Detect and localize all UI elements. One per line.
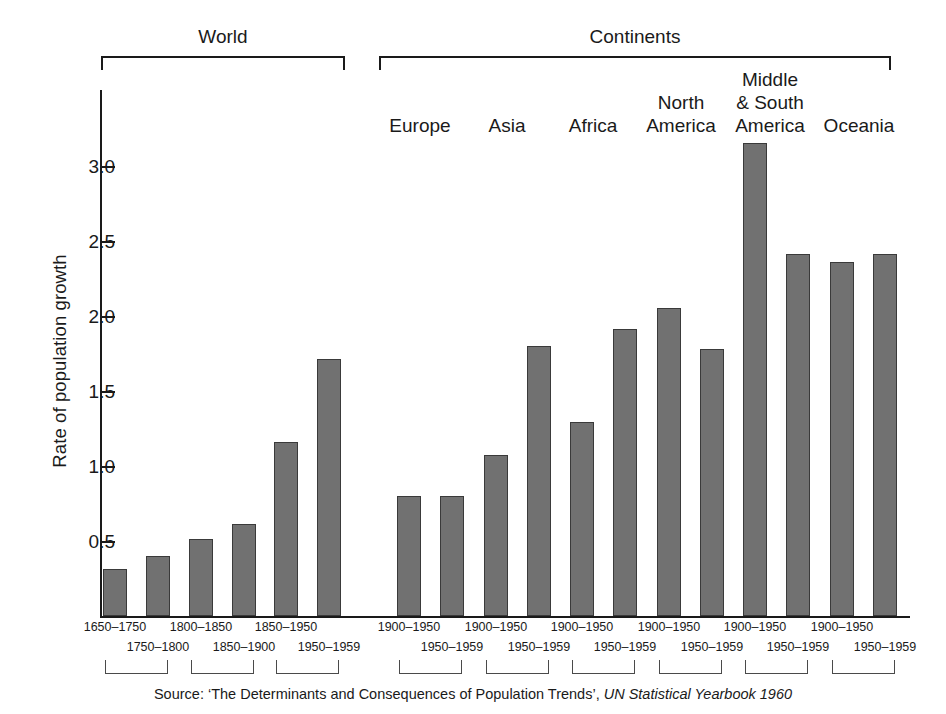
bar-world-3 [232,524,256,616]
source-italic: UN Statistical Yearbook 1960 [604,686,792,702]
pair-bracket-continent-1 [486,660,549,674]
period-label-world-1: 1750–1800 [108,640,208,654]
period-label-continent-0: 1900–1950 [359,620,459,634]
period-label-continent-6: 1900–1950 [619,620,719,634]
period-label-continent-5: 1950–1959 [575,640,675,654]
period-label-continent-3: 1950–1959 [489,640,589,654]
period-label-area: 1650–17501750–18001800–18501850–19001850… [0,618,946,688]
bar-middle---south-america-1 [786,254,810,616]
period-label-continent-8: 1900–1950 [705,620,805,634]
bar-oceania-0 [830,262,854,616]
bar-asia-0 [484,455,508,616]
period-label-continent-9: 1950–1959 [748,640,848,654]
period-label-continent-1: 1950–1959 [402,640,502,654]
bar-asia-1 [527,346,551,616]
bar-oceania-1 [873,254,897,616]
period-label-world-5: 1950–1959 [279,640,379,654]
period-label-continent-10: 1900–1950 [792,620,892,634]
period-label-continent-2: 1900–1950 [446,620,546,634]
period-label-world-0: 1650–1750 [65,620,165,634]
bar-europe-1 [440,496,464,616]
period-label-continent-7: 1950–1959 [662,640,762,654]
bar-north-america-0 [657,308,681,616]
bar-world-5 [317,359,341,616]
bar-north-america-1 [700,349,724,616]
bar-world-4 [274,442,298,616]
bar-world-2 [189,539,213,616]
pair-bracket-continent-4 [745,660,808,674]
population-growth-bar-chart: World Continents Europe Asia Africa Nort… [0,0,946,714]
pair-bracket-continent-2 [572,660,635,674]
source-prefix: Source: ‘The Determinants and Consequenc… [154,686,604,702]
source-note: Source: ‘The Determinants and Consequenc… [0,686,946,702]
bar-world-1 [146,556,170,616]
period-label-world-4: 1850–1950 [236,620,336,634]
bar-africa-0 [570,422,594,616]
bar-world-0 [103,569,127,616]
pair-bracket-world-0 [105,660,168,674]
bar-europe-0 [397,496,421,616]
period-label-continent-11: 1950–1959 [835,640,935,654]
pair-bracket-world-2 [276,660,339,674]
pair-bracket-world-1 [191,660,254,674]
bar-africa-1 [613,329,637,616]
plot-area [0,0,946,618]
pair-bracket-continent-0 [399,660,462,674]
period-label-continent-4: 1900–1950 [532,620,632,634]
bar-middle---south-america-0 [743,143,767,616]
pair-bracket-continent-5 [832,660,895,674]
pair-bracket-continent-3 [659,660,722,674]
